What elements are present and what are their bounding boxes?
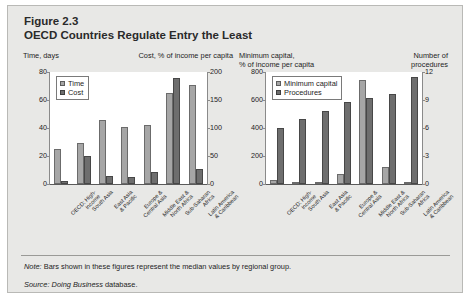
figure-note: Note: Bars shown in these figures repres… xyxy=(24,262,291,271)
axis-tickmark xyxy=(263,156,266,157)
bar-cost xyxy=(173,78,180,184)
y2-tick-label: 12 xyxy=(425,68,433,76)
legend-label-cost: Cost xyxy=(68,88,83,97)
bar-group xyxy=(404,72,418,184)
axis-tickmark xyxy=(47,156,50,157)
bar-time xyxy=(54,149,61,184)
bar-time xyxy=(77,143,84,184)
y2-tick-label: 6 xyxy=(425,124,429,132)
bar-minimum-capital xyxy=(404,182,411,184)
axis-tickmark xyxy=(422,72,425,73)
right-chart-plot-area: Minimum capital Procedures 8006004002000… xyxy=(265,72,423,185)
axis-tickmark xyxy=(263,184,266,185)
bar-cost xyxy=(106,176,113,184)
axis-tickmark xyxy=(422,100,425,101)
axis-tickmark xyxy=(47,100,50,101)
legend-label-procedures: Procedures xyxy=(284,88,322,97)
axis-tickmark xyxy=(207,184,210,185)
y2-tick-label: 3 xyxy=(425,152,429,160)
axis-tickmark xyxy=(422,184,425,185)
bar-procedures xyxy=(277,128,284,184)
bar-cost xyxy=(84,156,91,184)
y1-tick-label: 60 xyxy=(39,96,47,104)
figure-number: Figure 2.3 xyxy=(24,14,252,28)
bar-minimum-capital xyxy=(315,182,322,184)
figure-panel: Figure 2.3 OECD Countries Regulate Entry… xyxy=(7,5,463,293)
legend-swatch-procedures-icon xyxy=(276,90,281,95)
legend-item-procedures: Procedures xyxy=(276,88,337,97)
bar-time xyxy=(166,93,173,184)
y1-tick-label: 20 xyxy=(39,152,47,160)
bar-group xyxy=(99,72,113,184)
legend-item-cost: Cost xyxy=(60,88,84,97)
bar-group xyxy=(382,72,396,184)
bar-procedures xyxy=(389,94,396,184)
legend-swatch-time-icon xyxy=(60,81,65,86)
bar-group xyxy=(121,72,135,184)
axis-tickmark xyxy=(263,72,266,73)
axis-tickmark xyxy=(263,100,266,101)
bar-minimum-capital xyxy=(359,80,366,184)
bar-time xyxy=(144,125,151,184)
legend-swatch-minimum-capital-icon xyxy=(276,81,281,86)
bar-time xyxy=(121,127,128,184)
y2-tick-label: 100 xyxy=(210,124,222,132)
axis-tickmark xyxy=(207,72,210,73)
bar-minimum-capital xyxy=(292,182,299,184)
charts-panel: Time, days Cost, % of income per capita … xyxy=(21,51,450,254)
bar-group xyxy=(359,72,373,184)
legend-item-time: Time xyxy=(60,79,84,88)
bar-procedures xyxy=(344,102,351,184)
bar-minimum-capital xyxy=(337,174,344,184)
note-text: Bars shown in these figures represent th… xyxy=(44,262,291,271)
y1-tick-label: 40 xyxy=(39,124,47,132)
left-chart-y1-axis-title: Time, days xyxy=(23,51,59,60)
figure-title: OECD Countries Regulate Entry the Least xyxy=(24,28,252,43)
right-chart-y2-axis-title-line1: Number of xyxy=(411,51,448,60)
y2-tick-label: 150 xyxy=(210,96,222,104)
bar-group xyxy=(189,72,203,184)
figure-source: Source: Doing Business database. xyxy=(24,280,137,289)
right-chart-legend: Minimum capital Procedures xyxy=(272,76,342,100)
y2-tick-label: 0 xyxy=(425,180,429,188)
figure-title-block: Figure 2.3 OECD Countries Regulate Entry… xyxy=(24,14,252,43)
x-axis-label: East Asia& Pacific xyxy=(328,189,354,215)
chart-mincap-procedures: Minimum capital, % of income per capita … xyxy=(237,51,450,254)
y2-tick-label: 0 xyxy=(210,180,214,188)
bar-time xyxy=(189,85,196,184)
x-axis-label: East Asia& Pacific xyxy=(113,189,139,215)
bar-minimum-capital xyxy=(270,180,277,184)
axis-tickmark xyxy=(207,156,210,157)
footer-divider xyxy=(21,255,450,256)
bar-minimum-capital xyxy=(382,167,389,184)
legend-label-time: Time xyxy=(68,79,84,88)
note-label: Note: xyxy=(24,262,42,271)
y2-tick-label: 50 xyxy=(210,152,218,160)
axis-tickmark xyxy=(422,156,425,157)
right-chart-x-labels: OECD: High-incomeSouth AsiaEast Asia& Pa… xyxy=(265,187,423,249)
bar-procedures xyxy=(299,119,306,184)
axis-tickmark xyxy=(47,184,50,185)
bar-group xyxy=(144,72,158,184)
bar-cost xyxy=(151,172,158,184)
y1-tick-label: 600 xyxy=(251,96,263,104)
bar-cost xyxy=(196,169,203,184)
axis-tickmark xyxy=(207,128,210,129)
bar-time xyxy=(99,120,106,184)
y1-tick-label: 80 xyxy=(39,68,47,76)
legend-label-minimum-capital: Minimum capital xyxy=(284,79,337,88)
source-label: Source: xyxy=(24,280,49,289)
legend-item-minimum-capital: Minimum capital xyxy=(276,79,337,88)
y2-tick-label: 200 xyxy=(210,68,222,76)
y2-tick-label: 9 xyxy=(425,96,429,104)
source-rest: database. xyxy=(105,280,137,289)
y1-tick-label: 200 xyxy=(251,152,263,160)
legend-swatch-cost-icon xyxy=(60,90,65,95)
axis-tickmark xyxy=(422,128,425,129)
bar-procedures xyxy=(366,98,373,184)
y1-tick-label: 800 xyxy=(251,68,263,76)
axis-tickmark xyxy=(47,128,50,129)
source-publication: Doing Business xyxy=(52,280,103,289)
bar-procedures xyxy=(322,111,329,184)
axis-tickmark xyxy=(263,128,266,129)
